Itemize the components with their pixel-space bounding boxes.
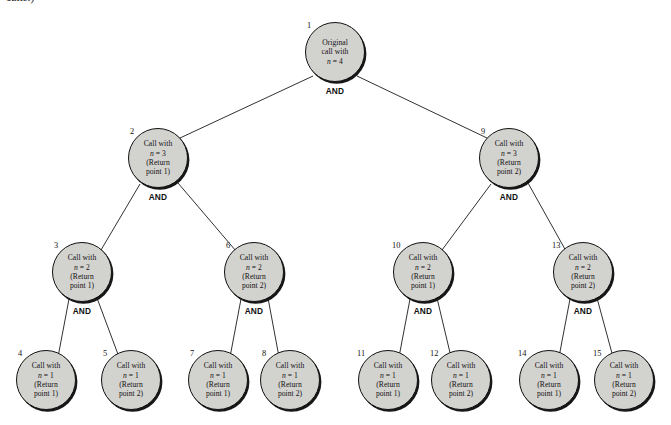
tree-node-label: Call withn = 1(Returnpoint 2) [595,361,653,399]
tree-node-label: Call withn = 2(Returnpoint 1) [394,253,452,291]
tree-node-label: Call withn = 1(Returnpoint 1) [520,361,578,399]
tree-node-number-8: 8 [262,349,266,358]
and-connector-label-13: AND [563,306,603,316]
tree-node-label: Call withn = 1(Returnpoint 2) [261,361,319,399]
tree-node-14[interactable]: Call withn = 1(Returnpoint 1) [519,350,579,410]
tree-node-11[interactable]: Call withn = 1(Returnpoint 1) [358,350,418,410]
and-connector-label-6: AND [234,306,274,316]
tree-node-8[interactable]: Call withn = 1(Returnpoint 2) [260,350,320,410]
tree-node-number-10: 10 [392,241,400,250]
tree-edge [101,184,140,250]
tree-node-1[interactable]: Originalcall withn = 4 [305,22,365,82]
tree-node-6[interactable]: Call withn = 2(Returnpoint 2) [224,242,284,302]
tree-node-label: Call withn = 1(Returnpoint 2) [102,361,160,399]
tree-node-9[interactable]: Call withn = 3(Returnpoint 2) [479,128,539,188]
tree-node-2[interactable]: Call withn = 3(Returnpoint 1) [128,128,188,188]
tree-node-number-5: 5 [103,349,107,358]
tree-node-4[interactable]: Call withn = 1(Returnpoint 1) [16,350,76,410]
tree-node-label: Call withn = 2(Returnpoint 2) [554,253,612,291]
tree-node-number-9: 9 [481,127,485,136]
and-connector-label-10: AND [403,306,443,316]
tree-node-number-14: 14 [518,349,526,358]
tree-node-label: Call withn = 1(Returnpoint 1) [189,361,247,399]
tree-node-label: Call withn = 3(Returnpoint 2) [480,139,538,177]
tree-node-label: Call withn = 2(Returnpoint 1) [53,253,111,291]
and-connector-label-9: AND [489,192,529,202]
tree-node-number-7: 7 [190,349,194,358]
tree-node-13[interactable]: Call withn = 2(Returnpoint 2) [553,242,613,302]
tree-node-label: Call withn = 1(Returnpoint 1) [17,361,75,399]
and-connector-label-3: AND [62,306,102,316]
tree-node-number-12: 12 [430,349,438,358]
tree-node-label: Originalcall withn = 4 [306,38,364,66]
tree-node-number-1: 1 [307,21,311,30]
tree-edge [442,184,491,250]
tree-node-label: Call withn = 3(Returnpoint 1) [129,139,187,177]
tree-edge [357,76,487,138]
tree-node-7[interactable]: Call withn = 1(Returnpoint 1) [188,350,248,410]
tree-node-label: Call withn = 1(Returnpoint 1) [359,361,417,399]
tree-node-12[interactable]: Call withn = 1(Returnpoint 2) [431,350,491,410]
tree-node-15[interactable]: Call withn = 1(Returnpoint 2) [594,350,654,410]
tree-node-number-15: 15 [593,349,601,358]
tree-node-number-3: 3 [54,241,58,250]
tree-node-label: Call withn = 1(Returnpoint 2) [432,361,490,399]
call-tree-figure: calls.) Originalcall withn = 41ANDCall w… [0,0,671,425]
tree-node-number-13: 13 [552,241,560,250]
tree-node-number-2: 2 [130,127,134,136]
and-connector-label-1: AND [315,86,355,96]
tree-node-label: Call withn = 2(Returnpoint 2) [225,253,283,291]
tree-node-3[interactable]: Call withn = 2(Returnpoint 1) [52,242,112,302]
tree-edge [180,76,313,138]
and-connector-label-2: AND [138,192,178,202]
tree-node-number-4: 4 [18,349,22,358]
tree-node-5[interactable]: Call withn = 1(Returnpoint 2) [101,350,161,410]
tree-node-10[interactable]: Call withn = 2(Returnpoint 1) [393,242,453,302]
tree-node-number-6: 6 [226,241,230,250]
tree-node-number-11: 11 [357,349,365,358]
